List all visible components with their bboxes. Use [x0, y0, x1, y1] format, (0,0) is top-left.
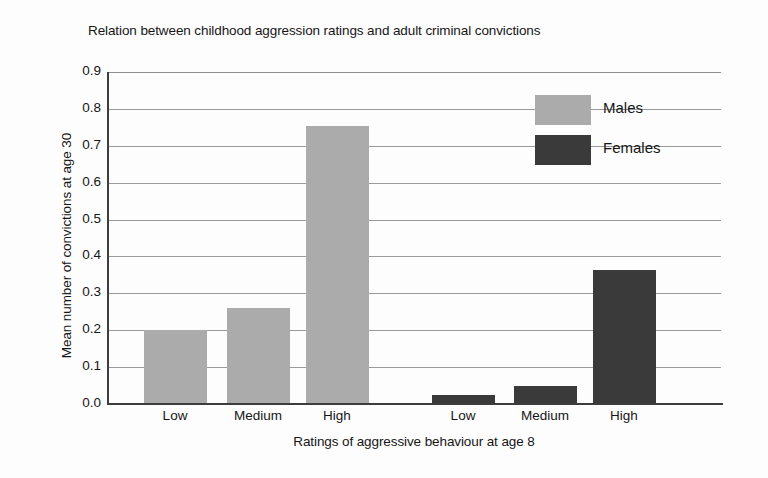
plot-inner — [107, 72, 721, 404]
legend-label-males: Males — [603, 99, 643, 116]
gridline — [107, 183, 721, 184]
x-tick-label: Medium — [521, 408, 569, 423]
y-tick-label: 0.2 — [61, 321, 101, 336]
bar-females-medium — [514, 386, 577, 404]
y-tick-label: 0.3 — [61, 284, 101, 299]
y-tick-label: 0.9 — [61, 63, 101, 78]
y-axis-tick-labels: 0.00.10.20.30.40.50.60.70.80.9 — [55, 72, 101, 404]
gridline — [107, 72, 721, 73]
y-axis-line — [107, 72, 109, 405]
bar-males-medium — [227, 308, 290, 404]
y-tick-label: 0.8 — [61, 100, 101, 115]
x-tick-label: High — [610, 408, 638, 423]
legend-swatch-females-icon — [535, 135, 591, 165]
y-tick-label: 0.6 — [61, 174, 101, 189]
y-tick-label: 0.1 — [61, 358, 101, 373]
x-axis-tick-labels: LowMediumHighLowMediumHigh — [107, 408, 721, 432]
x-axis-line — [107, 403, 723, 405]
bar-males-low — [144, 330, 207, 404]
x-tick-label: Low — [163, 408, 188, 423]
x-tick-label: Medium — [234, 408, 282, 423]
y-tick-label: 0.7 — [61, 137, 101, 152]
chart-figure: Relation between childhood aggression ra… — [0, 0, 768, 478]
y-tick-label: 0.5 — [61, 211, 101, 226]
bar-females-high — [593, 270, 656, 404]
gridline — [107, 256, 721, 257]
gridline — [107, 220, 721, 221]
chart-title: Relation between childhood aggression ra… — [88, 23, 540, 38]
y-tick-label: 0.4 — [61, 247, 101, 262]
x-axis-title: Ratings of aggressive behaviour at age 8 — [107, 434, 721, 449]
bar-males-high — [306, 126, 369, 405]
legend-label-females: Females — [603, 139, 661, 156]
y-tick-label: 0.0 — [61, 395, 101, 410]
x-tick-label: High — [323, 408, 351, 423]
legend-swatch-males-icon — [535, 95, 591, 125]
x-tick-label: Low — [451, 408, 476, 423]
plot-area — [107, 72, 721, 404]
